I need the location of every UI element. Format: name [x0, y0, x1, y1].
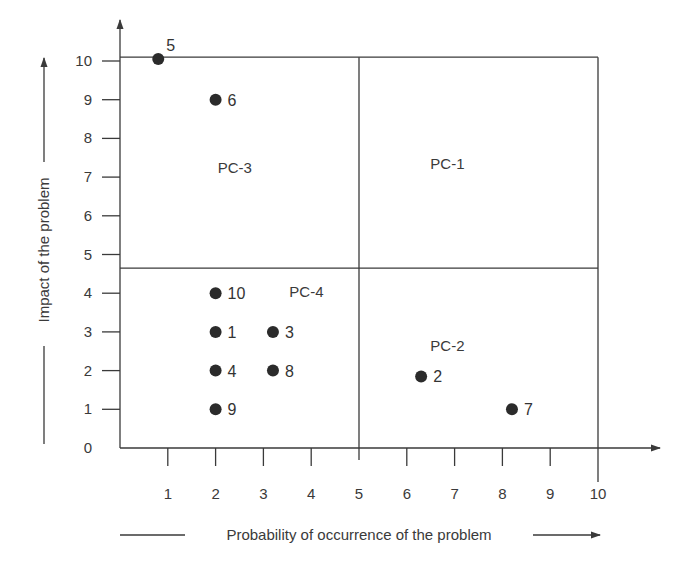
data-point — [415, 370, 427, 382]
x-tick-label: 3 — [259, 485, 267, 502]
data-points: 12345678910 — [152, 37, 533, 418]
data-point — [267, 365, 279, 377]
y-tick-label: 4 — [84, 284, 92, 301]
y-tick-label: 0 — [84, 439, 92, 456]
y-tick-label: 8 — [84, 129, 92, 146]
data-point-label: 6 — [228, 92, 237, 109]
axes — [120, 20, 660, 448]
data-point — [506, 403, 518, 415]
data-point-label: 4 — [228, 363, 237, 380]
y-tick-label: 10 — [75, 52, 92, 69]
x-tick-label: 7 — [450, 485, 458, 502]
data-point — [210, 326, 222, 338]
data-point-label: 2 — [433, 368, 442, 385]
ticks: 12345678910012345678910 — [75, 52, 606, 502]
quadrant-labels: PC-1PC-2PC-3PC-4 — [218, 155, 465, 354]
quadrant-label: PC-4 — [289, 283, 323, 300]
x-tick-label: 9 — [546, 485, 554, 502]
data-point-label: 7 — [524, 401, 533, 418]
data-point — [210, 403, 222, 415]
y-tick-label: 2 — [84, 362, 92, 379]
quadrant-label: PC-1 — [430, 155, 464, 172]
data-point-label: 5 — [166, 37, 175, 54]
data-point-label: 1 — [228, 324, 237, 341]
data-point — [210, 94, 222, 106]
data-point-label: 8 — [285, 363, 294, 380]
y-tick-label: 7 — [84, 168, 92, 185]
y-tick-label: 1 — [84, 400, 92, 417]
x-tick-label: 10 — [590, 485, 607, 502]
x-tick-label: 8 — [498, 485, 506, 502]
x-tick-label: 6 — [403, 485, 411, 502]
data-point-label: 3 — [285, 324, 294, 341]
risk-matrix-chart: 12345678910012345678910 PC-1PC-2PC-3PC-4… — [0, 0, 687, 574]
x-tick-label: 5 — [355, 485, 363, 502]
quadrant-label: PC-3 — [218, 159, 252, 176]
x-axis-label: Probability of occurrence of the problem — [226, 526, 491, 543]
y-tick-label: 6 — [84, 207, 92, 224]
x-tick-label: 2 — [211, 485, 219, 502]
data-point — [267, 326, 279, 338]
y-tick-label: 3 — [84, 323, 92, 340]
x-tick-label: 1 — [164, 485, 172, 502]
x-tick-label: 4 — [307, 485, 315, 502]
y-axis-label: Impact of the problem — [35, 177, 52, 322]
data-point — [152, 53, 164, 65]
quadrant-label: PC-2 — [430, 337, 464, 354]
y-tick-label: 9 — [84, 91, 92, 108]
data-point — [210, 287, 222, 299]
y-tick-label: 5 — [84, 246, 92, 263]
data-point — [210, 365, 222, 377]
data-point-label: 10 — [228, 285, 246, 302]
data-point-label: 9 — [228, 401, 237, 418]
